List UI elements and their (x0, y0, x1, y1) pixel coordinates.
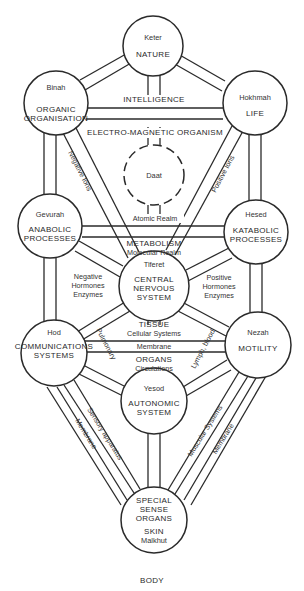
label-circulations: Circulations (135, 364, 173, 373)
node-nezah-title: MOTILITY (238, 344, 278, 353)
node-gevurah-title-1: ANABOLIC (29, 225, 72, 234)
label-negative-hormones-1: Negative (74, 272, 102, 281)
label-positive-hormones-2: Hormones (202, 282, 236, 291)
label-metabolism: METABOLISM (127, 239, 182, 248)
node-hokhmah: Hokhmah LIFE (223, 71, 287, 135)
label-positive-ions: Positive Ions (209, 153, 236, 194)
node-hod-title-1: COMMUNICATIONS (15, 342, 93, 351)
label-pulmonary: Pulmonary (94, 327, 118, 362)
node-hesed-title-2: PROCESSES (230, 235, 283, 244)
node-malkhut-title-2: SENSE (140, 505, 169, 514)
node-binah: Binah ORGANIC ORGANISATION (24, 71, 88, 135)
label-organs: ORGANS (136, 355, 172, 364)
node-yesod: Yesod AUTONOMIC SYSTEM (121, 368, 187, 434)
node-nezah: Nezah MOTILITY (225, 312, 291, 378)
node-yesod-name: Yesod (144, 384, 164, 393)
node-daat-name: Daat (146, 171, 162, 180)
node-binah-title-1: ORGANIC (36, 105, 75, 114)
node-malkhut-title-1: SPECIAL (136, 496, 172, 505)
label-molecular-realm: Molecular Realm (127, 248, 181, 257)
label-tissue: TISSUE (139, 320, 170, 329)
node-gevurah-name: Gevurah (36, 210, 64, 219)
node-gevurah: Gevurah ANABOLIC PROCESSES (18, 194, 82, 258)
node-daat: Daat (124, 145, 184, 205)
footer-body-label: BODY (140, 576, 164, 585)
node-tiferet: Tiferet CENTRAL NERVOUS SYSTEM (119, 251, 189, 321)
node-malkhut: SPECIAL SENSE ORGANS SKIN Malkhut (121, 487, 187, 553)
label-atomic-realm: Atomic Realm (133, 214, 178, 223)
node-malkhut-title-4: SKIN (144, 527, 164, 536)
node-hod-title-2: SYSTEMS (34, 351, 74, 360)
label-electro-magnetic: ELECTRO-MAGNETIC ORGANISM (87, 128, 223, 137)
node-binah-name: Binah (47, 83, 66, 92)
label-intelligence: INTELLIGENCE (123, 95, 184, 104)
label-membrane-mid: Membrane (137, 342, 171, 351)
node-binah-title-2: ORGANISATION (24, 114, 88, 123)
node-keter-title: NATURE (136, 50, 170, 59)
node-malkhut-title-3: ORGANS (136, 514, 172, 523)
node-hod-name: Hod (47, 328, 61, 337)
node-hokhmah-name: Hokhmah (239, 93, 271, 102)
node-keter-name: Keter (144, 33, 162, 42)
node-tiferet-title-1: CENTRAL (134, 275, 174, 284)
label-negative-hormones-2: Hormones (71, 281, 105, 290)
tree-of-life-diagram: Keter NATURE Binah ORGANIC ORGANISATION … (0, 0, 304, 591)
node-yesod-title-1: AUTONOMIC (128, 399, 179, 408)
node-tiferet-title-3: SYSTEM (137, 293, 172, 302)
node-hesed: Hesed KATABOLIC PROCESSES (224, 200, 288, 264)
node-hesed-title-1: KATABOLIC (233, 226, 279, 235)
node-tiferet-name: Tiferet (144, 260, 165, 269)
label-cellular-systems: Cellular Systems (127, 329, 181, 338)
label-positive-hormones-1: Positive (206, 273, 231, 282)
node-tiferet-title-2: NERVOUS (133, 284, 175, 293)
node-yesod-title-2: SYSTEM (137, 408, 172, 417)
label-negative-hormones-3: Enzymes (73, 290, 103, 299)
node-gevurah-title-2: PROCESSES (24, 234, 77, 243)
node-keter: Keter NATURE (123, 16, 183, 76)
node-hokhmah-title: LIFE (246, 109, 264, 118)
label-lymph-blood: Lymph, blood (189, 328, 217, 370)
node-malkhut-name: Malkhut (141, 536, 167, 545)
node-hesed-name: Hesed (245, 210, 266, 219)
node-nezah-name: Nezah (247, 328, 268, 337)
label-positive-hormones-3: Enzymes (204, 291, 234, 300)
